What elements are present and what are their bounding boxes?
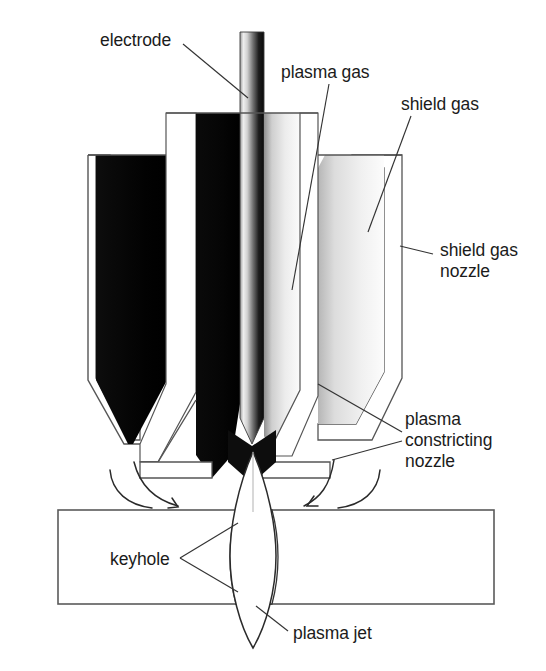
nozzle-bottom-face-left (140, 462, 212, 478)
label-constricting-nozzle-line1: plasma (405, 409, 461, 429)
shield-gas-channel-right (318, 155, 384, 424)
label-constricting-nozzle-line2: constricting (405, 430, 492, 450)
leader-shield-gas-nozzle (400, 246, 433, 254)
label-plasma-gas: plasma gas (281, 62, 370, 82)
label-shield-gas-nozzle-line2: nozzle (440, 261, 490, 281)
diagram-canvas: electrode plasma gas shield gas shield g… (0, 0, 546, 671)
leader-electrode (183, 44, 248, 98)
shield-gas-channel-left (96, 155, 166, 444)
plasma-gas-channel-left (196, 113, 240, 478)
plasma-jet (230, 452, 276, 648)
label-plasma-jet: plasma jet (293, 623, 372, 643)
plasma-torch-diagram: electrode plasma gas shield gas shield g… (0, 0, 546, 671)
label-electrode: electrode (100, 30, 171, 50)
torch-assembly (88, 32, 402, 478)
label-shield-gas-nozzle-line1: shield gas (440, 240, 518, 260)
label-constricting-nozzle-line3: nozzle (405, 451, 455, 471)
leader-constricting-nozzle-b (332, 441, 402, 460)
flow-curve-right-outer (338, 470, 380, 508)
label-keyhole: keyhole (110, 549, 170, 569)
plasma-gas-channel-right (264, 113, 300, 450)
label-shield-gas: shield gas (401, 94, 479, 114)
